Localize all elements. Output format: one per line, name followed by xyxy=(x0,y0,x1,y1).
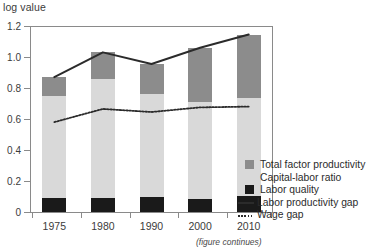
y-tick-label: 0.6 xyxy=(7,114,21,125)
line-wage-gap xyxy=(54,107,248,123)
y-tick-label: 0.8 xyxy=(7,83,21,94)
legend-label: Total factor productivity xyxy=(260,159,365,171)
legend-item-labor-productivity-gap[interactable]: Labor productivity gap xyxy=(245,197,365,209)
legend-swatch-swatch-black-icon xyxy=(245,185,254,194)
x-tick-label: 1975 xyxy=(43,220,66,232)
legend-item-capital-labor-ratio[interactable]: Capital-labor ratio xyxy=(245,172,365,184)
line-labor-productivity-gap xyxy=(54,35,248,78)
y-axis-title: log value xyxy=(3,1,46,13)
legend-label: Labor quality xyxy=(260,184,319,196)
x-tick-label: 1990 xyxy=(140,220,163,232)
legend-label: Labor productivity gap xyxy=(257,197,358,209)
chart-container: log value 00.20.40.60.81.01.2 1975198019… xyxy=(0,0,390,251)
legend-swatch-line-dotted-icon xyxy=(238,211,254,220)
legend-swatch-swatch-light-gray-icon xyxy=(245,173,254,182)
y-tick-label: 0.4 xyxy=(7,145,21,156)
legend-item-wage-gap[interactable]: Wage gap xyxy=(245,209,365,221)
legend-label: Capital-labor ratio xyxy=(260,172,341,184)
figure-continues-note: (figure continues) xyxy=(196,237,262,247)
y-tick-label: 0.2 xyxy=(7,176,21,187)
legend-swatch-swatch-dark-gray-icon xyxy=(245,160,254,169)
y-tick-label: 0 xyxy=(15,207,21,218)
line-series-layer xyxy=(30,26,273,213)
plot-area: 00.20.40.60.81.01.2 19751980199020002010 xyxy=(30,26,273,213)
legend-item-labor-quality[interactable]: Labor quality xyxy=(245,184,365,196)
legend-item-total-factor-productivity[interactable]: Total factor productivity xyxy=(245,159,365,171)
x-tick-label: 2000 xyxy=(188,220,211,232)
y-tick-label: 1.0 xyxy=(7,52,21,63)
legend-swatch-line-solid-icon xyxy=(238,198,254,207)
x-tick-label: 2010 xyxy=(237,220,260,232)
x-tick-label: 1980 xyxy=(91,220,114,232)
y-tick-label: 1.2 xyxy=(7,21,21,32)
legend-label: Wage gap xyxy=(257,209,304,221)
chart-legend: Total factor productivityCapital-labor r… xyxy=(245,159,365,221)
